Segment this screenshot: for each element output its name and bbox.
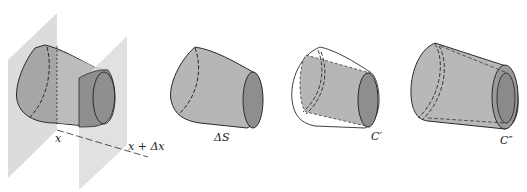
c-double-prime-inner-end: [497, 73, 515, 123]
figure-canvas: x x + Δx ΔS C′ C″: [0, 0, 527, 192]
panel-c-double-prime: [411, 43, 518, 129]
label-x: x: [55, 132, 61, 145]
label-c-double-prime: C″: [500, 134, 513, 147]
label-delta-s: ΔS: [214, 131, 229, 144]
panel-c-prime: [292, 47, 379, 128]
diagram-svg: [0, 0, 527, 192]
label-x-plus-dx: x + Δx: [128, 140, 165, 153]
panel-slab: [8, 13, 148, 190]
label-c-prime: C′: [371, 130, 382, 143]
panel-delta-s: [171, 47, 263, 128]
delta-s-end-cap: [243, 72, 263, 128]
c-prime-end-cap: [358, 73, 378, 127]
